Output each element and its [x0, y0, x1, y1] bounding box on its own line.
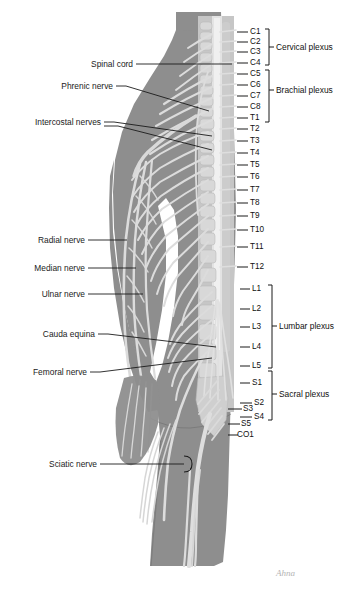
segment-label-T10: T10 — [250, 226, 264, 234]
artist-signature: Ahna — [276, 568, 295, 578]
segment-label-C1: C1 — [250, 28, 260, 36]
leader-line-intercostal-2 — [104, 126, 212, 150]
segment-label-C2: C2 — [250, 38, 260, 46]
segment-label-C5: C5 — [250, 70, 260, 78]
segment-label-T4: T4 — [250, 149, 260, 157]
plexus-bracket-0 — [265, 29, 269, 65]
segment-label-C3: C3 — [250, 48, 260, 56]
plexus-label-lumbar-plexus: Lumbar plexus — [279, 322, 334, 330]
segment-label-S3: S3 — [243, 405, 253, 413]
plexus-label-brachial-plexus: Brachial plexus — [276, 86, 333, 94]
nerve-label-cauda-equina: Cauda equina — [0, 330, 95, 338]
leader-line — [98, 334, 216, 347]
nerve-label-radial-nerve: Radial nerve — [0, 236, 85, 244]
segment-label-L4: L4 — [252, 343, 261, 351]
segment-label-T1: T1 — [250, 114, 260, 122]
segment-label-C7: C7 — [250, 92, 260, 100]
plexus-bracket-2 — [268, 285, 272, 368]
leader-line — [90, 358, 212, 372]
nerve-label-ulnar-nerve: Ulnar nerve — [0, 290, 85, 298]
segment-label-T5: T5 — [250, 161, 260, 169]
segment-label-C8: C8 — [250, 103, 260, 111]
segment-label-T9: T9 — [250, 212, 260, 220]
plexus-label-sacral-plexus: Sacral plexus — [279, 390, 329, 398]
nerve-label-sciatic-nerve: Sciatic nerve — [0, 460, 97, 468]
nerve-label-femoral-nerve: Femoral nerve — [0, 368, 87, 376]
plexus-bracket-3 — [268, 371, 272, 420]
segment-label-L2: L2 — [252, 305, 261, 313]
sciatic-bracket — [184, 456, 192, 472]
nerve-label-intercostal-nerves: Intercostal nerves — [0, 118, 101, 126]
segment-label-T3: T3 — [250, 137, 260, 145]
nerve-label-spinal-cord: Spinal cord — [0, 60, 133, 68]
leader-line — [104, 122, 212, 136]
segment-label-T7: T7 — [250, 186, 260, 194]
anatomy-figure: Spinal cordPhrenic nerveIntercostal nerv… — [0, 0, 349, 604]
segment-label-T12: T12 — [250, 263, 264, 271]
leader-line — [116, 86, 209, 111]
segment-label-S5: S5 — [241, 420, 251, 428]
segment-label-T8: T8 — [250, 199, 260, 207]
segment-label-L1: L1 — [252, 285, 261, 293]
plexus-bracket-1 — [265, 70, 269, 122]
segment-label-L5: L5 — [252, 362, 261, 370]
segment-label-S1: S1 — [252, 379, 262, 387]
segment-label-T6: T6 — [250, 173, 260, 181]
segment-label-S2: S2 — [254, 399, 264, 407]
nerve-label-median-nerve: Median nerve — [0, 264, 85, 272]
segment-label-C4: C4 — [250, 59, 260, 67]
segment-label-S4: S4 — [254, 413, 264, 421]
segment-label-T2: T2 — [250, 125, 260, 133]
segment-label-T11: T11 — [250, 243, 264, 251]
segment-label-L3: L3 — [252, 323, 261, 331]
segment-label-C6: C6 — [250, 81, 260, 89]
plexus-label-cervical-plexus: Cervical plexus — [276, 43, 333, 51]
nerve-label-phrenic-nerve: Phrenic nerve — [0, 82, 113, 90]
segment-label-CO1: CO1 — [237, 431, 254, 439]
